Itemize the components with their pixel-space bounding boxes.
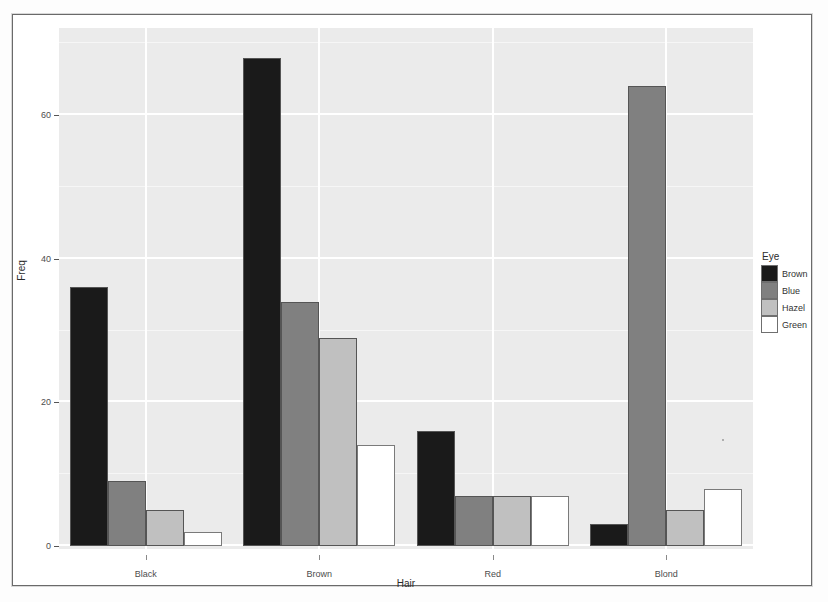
bar-blond-blue <box>628 86 666 546</box>
y-tick-mark <box>54 115 59 116</box>
legend-items: BrownBlueHazelGreen <box>761 265 823 333</box>
y-tick-label-0: 0 <box>46 541 51 551</box>
bar-black-blue <box>108 481 146 546</box>
chart-plot-area: 0204060 Freq BlackBrownRedBlond Hair Eye… <box>13 15 813 587</box>
x-tick-mark <box>666 555 667 560</box>
bar-brown-green <box>357 445 395 546</box>
scanned-page: 0204060 Freq BlackBrownRedBlond Hair Eye… <box>0 0 828 602</box>
legend-item-blue: Blue <box>761 282 823 299</box>
legend-swatch-brown <box>761 265 778 282</box>
legend: Eye BrownBlueHazelGreen <box>761 251 823 333</box>
y-tick-label-20: 20 <box>41 397 51 407</box>
legend-swatch-hazel <box>761 299 778 316</box>
x-axis-tick-labels: BlackBrownRedBlond <box>59 555 753 579</box>
y-axis-title: Freq <box>16 241 27 301</box>
legend-item-brown: Brown <box>761 265 823 282</box>
bar-red-blue <box>455 496 493 546</box>
bar-red-brown <box>417 431 455 546</box>
chart-panel <box>59 28 753 549</box>
gridline-major-x <box>145 28 147 549</box>
y-axis-tick-marks <box>53 28 59 549</box>
y-tick-label-40: 40 <box>41 254 51 264</box>
x-tick-mark <box>146 555 147 560</box>
scan-speck <box>722 439 724 441</box>
figure-frame: 0204060 Freq BlackBrownRedBlond Hair Eye… <box>12 14 812 586</box>
bar-blond-brown <box>590 524 628 546</box>
bar-black-brown <box>70 287 108 546</box>
legend-label-green: Green <box>782 320 807 330</box>
x-tick-mark <box>319 555 320 560</box>
bar-red-hazel <box>493 496 531 546</box>
bar-brown-blue <box>281 302 319 546</box>
bar-brown-brown <box>243 58 281 546</box>
legend-label-brown: Brown <box>782 269 808 279</box>
y-tick-mark <box>54 259 59 260</box>
bar-brown-hazel <box>319 338 357 546</box>
y-tick-mark <box>54 546 59 547</box>
legend-item-green: Green <box>761 316 823 333</box>
legend-label-blue: Blue <box>782 286 800 296</box>
x-tick-mark <box>493 555 494 560</box>
y-tick-label-60: 60 <box>41 110 51 120</box>
y-tick-mark <box>54 402 59 403</box>
legend-swatch-blue <box>761 282 778 299</box>
x-axis-title: Hair <box>59 578 753 589</box>
legend-swatch-green <box>761 316 778 333</box>
legend-label-hazel: Hazel <box>782 303 805 313</box>
bar-blond-green <box>704 489 742 546</box>
gridline-major-x <box>492 28 494 549</box>
bar-red-green <box>531 496 569 546</box>
legend-title: Eye <box>761 251 823 262</box>
bar-black-green <box>184 532 222 546</box>
bar-black-hazel <box>146 510 184 546</box>
legend-item-hazel: Hazel <box>761 299 823 316</box>
gridline-minor-y <box>59 42 753 43</box>
bar-blond-hazel <box>666 510 704 546</box>
